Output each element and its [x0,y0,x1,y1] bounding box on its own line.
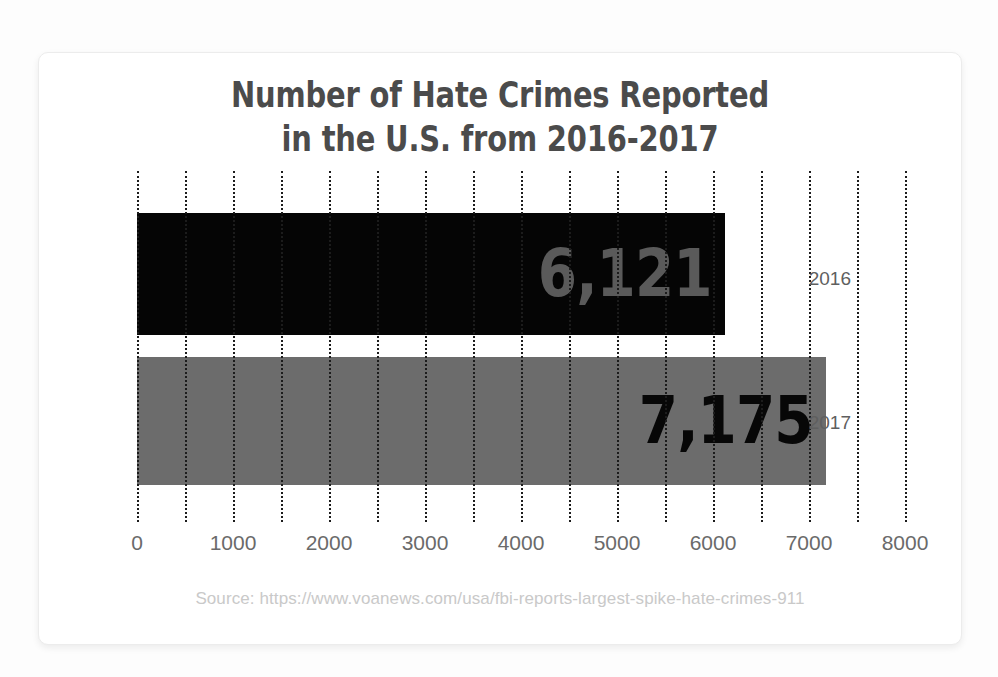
gridline-7500 [857,171,859,522]
category-label-2017: 2017 [731,412,851,434]
screenshot-stage: Number of Hate Crimes Reported in the U.… [0,0,998,677]
gridline-4000 [521,171,523,522]
x-tick-label-8000: 8000 [845,531,965,555]
gridline-5500 [665,171,667,522]
x-axis-tick-labels: 010002000300040005000600070008000 [137,531,905,561]
gridline-3000 [425,171,427,522]
source-caption: Source: https://www.voanews.com/usa/fbi-… [39,589,961,609]
gridline-2500 [377,171,379,522]
gridline-0 [137,171,139,522]
gridline-8000 [905,171,907,522]
chart-title: Number of Hate Crimes Reported in the U.… [76,73,924,161]
chart-card: Number of Hate Crimes Reported in the U.… [38,52,962,645]
gridline-6500 [761,171,763,522]
gridline-7000 [809,171,811,522]
gridline-5000 [617,171,619,522]
gridline-6000 [713,171,715,522]
plot-area: 6,121 7,175 [137,171,905,522]
gridline-1000 [233,171,235,522]
gridline-4500 [569,171,571,522]
gridline-1500 [281,171,283,522]
bar-2017[interactable]: 7,175 [137,357,826,485]
bar-value-2016: 6,121 [538,241,725,307]
gridline-3500 [473,171,475,522]
category-label-2016: 2016 [731,268,851,290]
gridline-2000 [329,171,331,522]
bar-2016[interactable]: 6,121 [137,213,725,335]
gridline-500 [185,171,187,522]
